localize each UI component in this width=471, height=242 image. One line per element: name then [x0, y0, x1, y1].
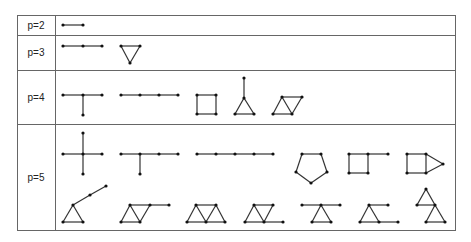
graph-vertex: [81, 152, 84, 155]
graph-edge: [312, 205, 321, 222]
graph-edge: [254, 205, 264, 222]
graph-vertex: [61, 44, 64, 47]
graph-edge: [206, 205, 216, 222]
graph-p5-13: [415, 187, 446, 223]
graph-vertex: [185, 220, 188, 223]
graph-edge: [216, 205, 225, 222]
graph-edge: [296, 172, 311, 183]
graph-vertex: [433, 203, 436, 206]
graph-vertex: [195, 112, 198, 115]
graph-edge: [369, 205, 379, 222]
graph-vertex: [242, 76, 245, 79]
graph-vertex: [167, 203, 170, 206]
graph-vertex: [367, 203, 370, 206]
graph-vertex: [119, 220, 122, 223]
graph-vertex: [100, 152, 103, 155]
graph-p2-1: [61, 23, 84, 26]
row-label-p3: p=3: [28, 47, 45, 58]
graph-vertex: [319, 152, 322, 155]
graph-edge: [282, 97, 292, 114]
graph-edge: [360, 205, 369, 222]
graph-p5-11: [300, 203, 341, 223]
graph-edge: [273, 97, 282, 114]
graph-edge: [426, 164, 443, 173]
graph-vertex: [415, 203, 418, 206]
graph-vertex: [61, 23, 64, 26]
graph-vertex: [194, 203, 197, 206]
graph-vertex: [61, 93, 64, 96]
graph-vertex: [61, 152, 64, 155]
graph-vertex: [338, 203, 341, 206]
graph-vertex: [104, 184, 107, 187]
graph-p5-5: [347, 152, 389, 174]
graph-p5-9: [185, 203, 226, 223]
graph-vertex: [347, 171, 350, 174]
graph-vertex: [138, 44, 141, 47]
graph-vertex: [366, 171, 369, 174]
graph-vertex: [443, 220, 446, 223]
graph-vertex: [157, 152, 160, 155]
graph-vertex: [386, 203, 389, 206]
graph-vertex: [252, 203, 255, 206]
graph-vertex: [347, 152, 350, 155]
graph-edge: [196, 205, 206, 222]
graph-edge: [296, 154, 302, 172]
graph-edge: [187, 205, 196, 222]
graph-p3-1: [61, 44, 103, 47]
graph-edge: [73, 195, 90, 205]
graph-vertex: [81, 93, 84, 96]
graph-p5-8: [119, 203, 170, 223]
graph-vertex: [204, 220, 207, 223]
graph-vertex: [176, 93, 179, 96]
graph-vertex: [252, 112, 255, 115]
graph-p4-4: [233, 76, 255, 115]
graph-vertex: [71, 203, 74, 206]
graph-vertex: [396, 220, 399, 223]
graph-p4-1: [61, 93, 103, 116]
graph-vertex: [128, 203, 131, 206]
graph-vertex: [281, 220, 284, 223]
graph-edge: [63, 205, 73, 222]
graph-vertex: [310, 220, 313, 223]
graph-vertex: [271, 152, 274, 155]
graph-p4-3: [195, 93, 217, 115]
graph-vertex: [233, 112, 236, 115]
graph-vertex: [366, 152, 369, 155]
graph-vertex: [271, 112, 274, 115]
graph-vertex: [214, 203, 217, 206]
graph-vertex: [81, 23, 84, 26]
graph-edge: [426, 154, 443, 164]
row-label-p5: p=5: [28, 172, 45, 183]
graph-vertex: [81, 113, 84, 116]
graph-edge: [140, 205, 150, 222]
graph-table-figure: p=2 p=3 p=4 p=5: [0, 0, 471, 242]
graph-vertex: [441, 162, 444, 165]
graph-edge: [121, 205, 130, 222]
graph-vertex: [138, 93, 141, 96]
graph-edge: [321, 205, 331, 222]
graph-vertex: [157, 93, 160, 96]
graph-vertex: [271, 203, 274, 206]
graph-vertex: [81, 220, 84, 223]
graph-vertex: [138, 220, 141, 223]
graph-vertex: [424, 220, 427, 223]
graph-vertex: [88, 193, 91, 196]
graph-vertex: [424, 187, 427, 190]
graph-vertex: [223, 220, 226, 223]
graph-p4-5: [271, 95, 303, 115]
row-label-p2: p=2: [28, 20, 45, 31]
graph-vertex: [195, 93, 198, 96]
graph-vertex: [119, 152, 122, 155]
graph-edge: [245, 205, 254, 222]
graph-vertex: [377, 220, 380, 223]
graph-p5-1: [61, 131, 103, 175]
graph-vertex: [214, 152, 217, 155]
graph-vertex: [300, 152, 303, 155]
graph-vertex: [81, 172, 84, 175]
graph-vertex: [319, 203, 322, 206]
graph-vertex: [128, 61, 131, 64]
graph-vertex: [300, 203, 303, 206]
graph-vertex: [119, 44, 122, 47]
table-border: [18, 16, 456, 231]
graph-vertex: [280, 95, 283, 98]
